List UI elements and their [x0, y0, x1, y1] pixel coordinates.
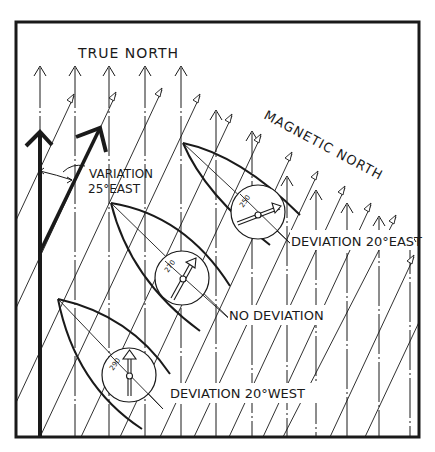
compass-deviation-diagram: TRUE NORTH MAGNETIC NORTH VARIATION 25°E… [0, 0, 435, 452]
caption-deviation-east: DEVIATION 20°EAST [291, 234, 422, 249]
magnetic-north-arrow-icon [0, 94, 74, 426]
variation-angle-arc [40, 171, 72, 180]
caption-no-deviation: NO DEVIATION [229, 308, 324, 323]
boat-deviation-east [183, 143, 300, 245]
true-north-arrow-icon [69, 66, 81, 437]
variation-label-line2: 25°EAST [88, 182, 141, 196]
variation-label-line1: VARIATION [89, 167, 153, 181]
true-north-label: TRUE NORTH [77, 45, 179, 61]
magnetic-north-arrow-icon [330, 255, 414, 437]
caption-deviation-west: DEVIATION 20°WEST [170, 386, 305, 401]
magnetic-north-label: MAGNETIC NORTH [262, 107, 386, 183]
